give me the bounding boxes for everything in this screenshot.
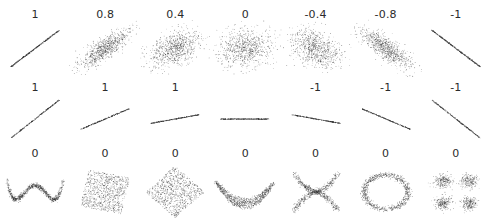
scatter-panel: 0.4 <box>140 2 210 75</box>
correlation-value-label: -0.8 <box>351 8 421 21</box>
correlation-value-label: -1 <box>421 81 491 94</box>
correlation-value-label: -1 <box>421 8 491 21</box>
scatter-panel: 0 <box>421 143 491 223</box>
scatter-plot <box>0 161 70 223</box>
scatter-plot <box>0 95 70 143</box>
correlation-value-label: 0 <box>210 147 280 160</box>
correlation-value-label: 0 <box>281 147 351 160</box>
scatter-plot <box>351 22 421 75</box>
scatter-plot <box>421 95 491 143</box>
correlation-value-label: 0 <box>70 147 140 160</box>
correlation-value-label: 1 <box>140 81 210 94</box>
correlation-value-label: 0.8 <box>70 8 140 21</box>
scatter-panel: -1 <box>421 2 491 75</box>
correlation-value-label: 0 <box>421 147 491 160</box>
scatter-panel: 0 <box>140 143 210 223</box>
correlation-value-label: 1 <box>70 81 140 94</box>
scatter-panel: 0 <box>0 143 70 223</box>
scatter-plot <box>140 161 210 223</box>
scatter-plot <box>140 95 210 143</box>
scatter-plot <box>70 22 140 75</box>
scatter-plot <box>210 161 280 223</box>
scatter-plot <box>351 95 421 143</box>
scatter-panel: -0.4 <box>281 2 351 75</box>
scatter-plot <box>70 95 140 143</box>
scatter-plot <box>281 95 351 143</box>
scatter-panel: 0 <box>70 143 140 223</box>
correlation-value-label: 0 <box>0 147 70 160</box>
scatter-panel: 1 <box>70 75 140 143</box>
correlation-row-slopes: 111-1-1-1 <box>0 75 491 143</box>
correlation-value-label: 1 <box>0 81 70 94</box>
scatter-plot <box>421 22 491 75</box>
scatter-plot <box>70 161 140 223</box>
scatter-panel: 1 <box>0 2 70 75</box>
correlation-row-nonlinear: 0000000 <box>0 143 491 223</box>
scatter-plot <box>421 161 491 223</box>
scatter-panel: 0 <box>210 2 280 75</box>
scatter-plot <box>0 22 70 75</box>
correlation-value-label: 0 <box>351 147 421 160</box>
scatter-panel <box>210 75 280 143</box>
scatter-panel: -0.8 <box>351 2 421 75</box>
scatter-plot <box>140 22 210 75</box>
scatter-panel: 0 <box>281 143 351 223</box>
correlation-figure: 10.80.40-0.4-0.8-1 111-1-1-1 0000000 <box>0 0 491 223</box>
scatter-panel: -1 <box>421 75 491 143</box>
correlation-value-label: -0.4 <box>281 8 351 21</box>
scatter-panel: 0 <box>210 143 280 223</box>
scatter-panel: 1 <box>0 75 70 143</box>
scatter-panel: 0 <box>351 143 421 223</box>
correlation-value-label: -1 <box>351 81 421 94</box>
correlation-value-label: -1 <box>281 81 351 94</box>
scatter-plot <box>281 22 351 75</box>
scatter-panel: -1 <box>281 75 351 143</box>
correlation-value-label: 0 <box>210 8 280 21</box>
scatter-plot <box>281 161 351 223</box>
scatter-plot <box>210 95 280 143</box>
scatter-panel: 1 <box>140 75 210 143</box>
correlation-value-label: 0 <box>140 147 210 160</box>
correlation-value-label: 0.4 <box>140 8 210 21</box>
correlation-value-label: 1 <box>0 8 70 21</box>
correlation-row-varying: 10.80.40-0.4-0.8-1 <box>0 2 491 75</box>
scatter-plot <box>210 22 280 75</box>
scatter-panel: -1 <box>351 75 421 143</box>
scatter-panel: 0.8 <box>70 2 140 75</box>
scatter-plot <box>351 161 421 223</box>
